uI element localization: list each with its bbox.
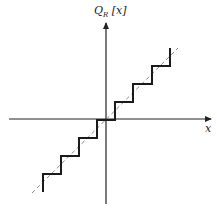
y-label-subscript: R (103, 11, 108, 19)
y-label-q: Q (94, 4, 103, 17)
quantizer-diagram (0, 0, 217, 211)
quantizer-staircase-lower (43, 120, 115, 192)
y-axis-label: QR [x] (94, 4, 127, 19)
y-label-argument: [x] (112, 4, 127, 17)
x-axis-label: x (205, 122, 211, 135)
quantizer-staircase-upper (97, 48, 170, 120)
